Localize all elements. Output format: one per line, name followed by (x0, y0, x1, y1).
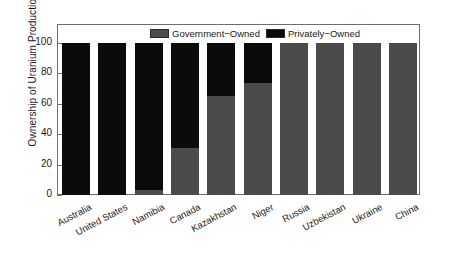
bar-kazakhstan[interactable] (207, 43, 235, 195)
bar-russia[interactable] (280, 43, 308, 195)
y-tick-label: 100 (18, 36, 52, 47)
bar-segment-private (244, 43, 272, 83)
bar-segment-government (389, 43, 417, 195)
chart-figure: Ownership of Uranium Production (%) 0204… (0, 0, 460, 257)
bar-namibia[interactable] (135, 43, 163, 195)
bar-niger[interactable] (244, 43, 272, 195)
bar-segment-government (353, 43, 381, 195)
legend-item-private[interactable]: Privately−Owned (266, 28, 360, 39)
bar-segment-government (280, 43, 308, 195)
legend-item-government[interactable]: Government−Owned (150, 28, 260, 39)
bar-segment-government (316, 43, 344, 195)
bar-segment-government (244, 83, 272, 195)
bar-ukraine[interactable] (353, 43, 381, 195)
y-tick-label: 80 (18, 66, 52, 77)
bar-segment-private (98, 43, 126, 195)
y-tick-label: 0 (18, 188, 52, 199)
legend-label-private: Privately−Owned (288, 28, 360, 39)
bar-china[interactable] (389, 43, 417, 195)
bar-segment-government (171, 148, 199, 195)
bar-segment-government (135, 190, 163, 195)
y-tick-label: 20 (18, 158, 52, 169)
bar-australia[interactable] (62, 43, 90, 195)
y-tick-label: 60 (18, 97, 52, 108)
chart-legend: Government−Owned Privately−Owned (150, 27, 360, 40)
bar-segment-private (135, 43, 163, 190)
bar-uzbekistan[interactable] (316, 43, 344, 195)
bar-canada[interactable] (171, 43, 199, 195)
bar-segment-private (207, 43, 235, 96)
legend-label-government: Government−Owned (172, 28, 260, 39)
y-tick-label: 40 (18, 127, 52, 138)
legend-swatch-government-icon (150, 29, 169, 38)
bar-segment-government (207, 96, 235, 195)
bar-segment-private (171, 43, 199, 148)
bar-segment-private (62, 43, 90, 195)
bar-united-states[interactable] (98, 43, 126, 195)
y-tick-mark (57, 195, 62, 196)
legend-swatch-private-icon (266, 29, 285, 38)
